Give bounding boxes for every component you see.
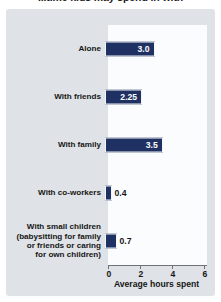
x-tick-label: 6 — [203, 270, 208, 279]
category-label: With friends — [6, 92, 105, 101]
bar-track: 3.5 — [105, 121, 211, 169]
chart-panel: Alone 3.0 With friends 2.25 With family — [6, 9, 215, 296]
bar — [105, 186, 112, 201]
bar-track: 0.4 — [105, 169, 211, 217]
bar-rows: Alone 3.0 With friends 2.25 With family — [6, 25, 215, 265]
bar-value: 0.7 — [120, 237, 132, 246]
bar-value: 2.25 — [120, 93, 141, 102]
bar: 3.5 — [105, 138, 163, 153]
chart-figure: ...time kids may spend in with Alone 3.0… — [0, 0, 221, 302]
bar-value: 0.4 — [115, 189, 127, 198]
bar-value: 3.5 — [146, 141, 162, 150]
bar-row: Alone 3.0 — [6, 25, 215, 73]
bar-row: With friends 2.25 — [6, 73, 215, 121]
bar — [105, 234, 117, 249]
bar-track: 0.7 — [105, 217, 211, 265]
bar-track: 3.0 — [105, 25, 211, 73]
bar-track: 2.25 — [105, 73, 211, 121]
category-label: With co-workers — [6, 188, 105, 197]
bar-value: 3.0 — [138, 45, 154, 54]
bar-row: With small children (babysitting for fam… — [6, 217, 215, 265]
bar: 3.0 — [105, 42, 155, 57]
category-label: Alone — [6, 44, 105, 53]
chart-title-cropped: ...time kids may spend in with — [0, 0, 221, 7]
category-label: With small children (babysitting for fam… — [6, 222, 105, 260]
axis-line — [108, 265, 207, 266]
x-tick-label: 0 — [107, 270, 112, 279]
category-label: With family — [6, 140, 105, 149]
chart-title: ...time kids may spend in with — [0, 0, 221, 3]
bar-row: With co-workers 0.4 — [6, 169, 215, 217]
x-axis-title: Average hours spent — [98, 280, 215, 289]
bar-row: With family 3.5 — [6, 121, 215, 169]
x-axis: 0 2 4 6 — [108, 265, 207, 266]
bar: 2.25 — [105, 90, 142, 105]
x-tick-label: 4 — [171, 270, 176, 279]
x-tick-label: 2 — [139, 270, 144, 279]
